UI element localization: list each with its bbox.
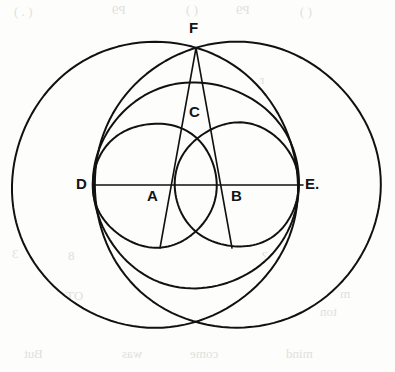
chord-F-to-A-extended xyxy=(160,48,196,248)
diagram-page: ( . )P9( )P9( )r38?OTmtonButwascomemind … xyxy=(0,0,395,372)
geometric-figure xyxy=(0,0,395,372)
vertex-label-f: F xyxy=(189,20,198,35)
vertex-label-b: B xyxy=(231,188,242,203)
chord-F-to-B-extended xyxy=(196,48,232,248)
vertex-label-d: D xyxy=(76,176,87,191)
vertex-label-c: C xyxy=(189,104,200,119)
vertex-label-e: E. xyxy=(305,176,319,191)
vertex-label-a: A xyxy=(147,188,158,203)
